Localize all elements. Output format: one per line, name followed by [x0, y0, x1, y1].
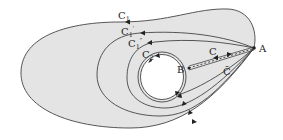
label-b: B	[177, 64, 184, 75]
point-a	[252, 46, 256, 50]
label-c1-prime: C1′	[121, 25, 135, 39]
arrow-c1-bottom	[192, 119, 197, 124]
label-cut-upper: C	[209, 46, 217, 57]
label-cut-lower: C̄	[223, 66, 231, 77]
point-b	[188, 67, 191, 70]
contour-c1	[21, 9, 255, 128]
label-a: A	[258, 43, 267, 54]
label-c1: C1	[118, 10, 130, 23]
contour-diagram: A B C1 C1′ C1″ C2 C C̄	[0, 0, 283, 140]
